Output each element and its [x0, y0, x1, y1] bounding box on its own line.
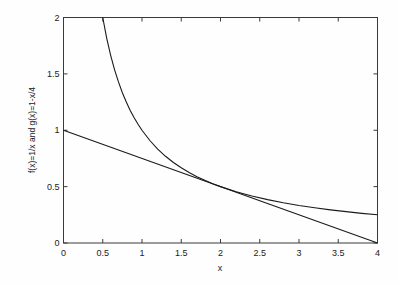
figure-container: 00.511.522.533.54 00.511.52 x f(x)=1/x a… [0, 0, 398, 285]
y-tick-label: 1 [42, 126, 60, 135]
x-tick-label: 3.5 [332, 249, 345, 258]
x-tick-label: 0 [61, 249, 66, 258]
x-tick-label: 2.5 [253, 249, 266, 258]
curve-g-of-x [64, 130, 378, 243]
x-tick-label: 4 [375, 249, 380, 258]
y-tick-label: 1.5 [42, 69, 60, 78]
x-tick-label: 0.5 [96, 249, 109, 258]
plot-svg [0, 0, 398, 285]
curve-f-of-x [103, 18, 378, 215]
y-tick-label: 0 [42, 239, 60, 248]
y-tick-label: 2 [42, 13, 60, 22]
x-tick-label: 1.5 [175, 249, 188, 258]
x-axis-label: x [218, 264, 223, 273]
axes-box [64, 18, 378, 244]
tick-marks [64, 18, 378, 244]
data-curves [64, 18, 378, 244]
y-axis-label: f(x)=1/x and g(x)=1-x/4 [28, 87, 37, 173]
x-tick-label: 2 [218, 249, 223, 258]
y-tick-label: 0.5 [42, 182, 60, 191]
x-tick-label: 3 [296, 249, 301, 258]
x-tick-label: 1 [139, 249, 144, 258]
